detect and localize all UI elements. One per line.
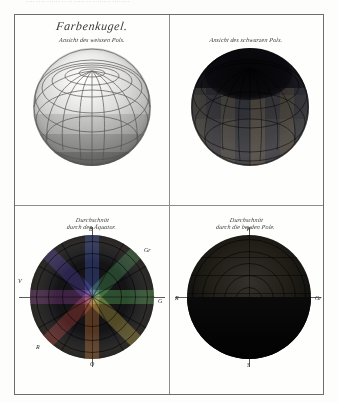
label-O: O <box>90 361 94 367</box>
label-V: V <box>18 278 22 284</box>
black-pole-globe <box>191 48 309 166</box>
panel-polar-section: Durchschnitt durch die beyden Pole. W <box>169 205 323 395</box>
radial-spoke <box>92 297 93 359</box>
panel-black-pole: Ansicht des schwarzen Pols. <box>169 15 323 205</box>
label-B: B <box>89 226 93 232</box>
plate-divider-horizontal <box>15 205 323 206</box>
caption-line-1: Durchschnitt <box>15 216 169 223</box>
radial-spoke <box>93 296 155 297</box>
caption-line-1: Durchschnitt <box>169 216 323 223</box>
dark-hemisphere <box>187 297 311 359</box>
cropped-page-text: ···· ···· ······ ·· ·· ····· ·· ········… <box>26 1 216 7</box>
globe-graticule <box>33 48 151 166</box>
label-Gr: Gr <box>315 295 322 301</box>
white-pole-figure <box>15 15 169 205</box>
radial-spoke <box>31 296 93 297</box>
panel-white-pole: Farbenkugel. Ansicht des weissen Pols. <box>15 15 169 205</box>
label-R: R <box>36 344 40 350</box>
label-W: W <box>246 226 251 232</box>
white-pole-globe <box>33 48 151 166</box>
globe-graticule <box>191 48 309 166</box>
panel-equatorial-section: Durchschnitt durch den Äquator. <box>15 205 169 395</box>
cropped-page-text-line: ···· ···· ······ ·· ·· ····· ·· ········… <box>26 1 216 5</box>
label-R: R <box>175 295 179 301</box>
black-pole-figure <box>169 15 323 205</box>
label-Gr: Gr <box>144 247 151 253</box>
radial-spoke <box>92 235 93 297</box>
equatorial-section-disc <box>30 235 154 359</box>
engraved-plate: Farbenkugel. Ansicht des weissen Pols. <box>14 14 324 395</box>
label-S: S <box>247 362 250 368</box>
label-G: G <box>158 298 162 304</box>
polar-section-disc <box>187 235 311 359</box>
